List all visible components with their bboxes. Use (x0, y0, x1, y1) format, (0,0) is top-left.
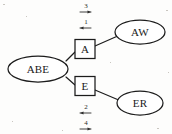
node-aw[interactable]: AW (115, 20, 165, 44)
node-er-label: ER (133, 97, 148, 109)
node-e-label: E (82, 80, 89, 92)
annotation-bottom-2: 2 (80, 103, 91, 115)
node-er[interactable]: ER (117, 91, 163, 115)
annotation-top-3-label: 3 (84, 2, 88, 10)
annotation-top-1-arrow-head (80, 26, 84, 29)
annotation-top-3: 3 (80, 2, 91, 14)
annotation-top-1: 1 (80, 18, 91, 30)
node-a-label: A (81, 43, 89, 55)
edge-abe-a (66, 52, 75, 61)
annotation-top-1-label: 1 (84, 18, 88, 26)
node-e[interactable]: E (75, 77, 95, 96)
annotation-top-3-arrow-head (88, 10, 92, 13)
annotation-bottom-4-arrow-head (88, 127, 92, 130)
node-abe-label: ABE (27, 63, 50, 75)
diagram-canvas: ABE A E AW ER 3 1 (0, 0, 172, 134)
edge-e-er (95, 90, 121, 101)
annotation-bottom-2-arrow-head (80, 111, 84, 114)
annotation-bottom-4: 4 (80, 119, 91, 131)
node-abe[interactable]: ABE (8, 56, 68, 82)
node-aw-label: AW (131, 26, 149, 38)
annotation-bottom-2-label: 2 (84, 103, 88, 111)
annotation-bottom-4-label: 4 (84, 119, 88, 127)
edge-abe-e (66, 77, 75, 85)
node-a[interactable]: A (75, 40, 95, 59)
